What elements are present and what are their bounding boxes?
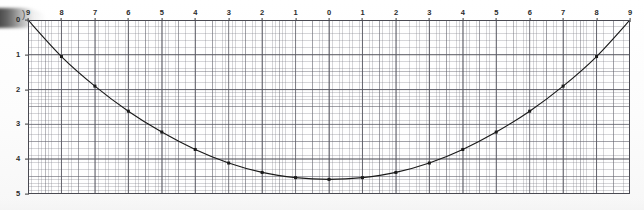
data-point-marker-1: [60, 55, 63, 58]
data-point-marker-10: [361, 176, 364, 179]
x-tick-label-2: 7: [93, 9, 97, 17]
data-point-marker-7: [261, 171, 264, 174]
x-tick-label-1: 8: [59, 9, 63, 17]
data-point-marker-15: [528, 110, 531, 113]
data-point-marker-2: [93, 85, 96, 88]
data-point-marker-16: [562, 85, 565, 88]
x-tick-label-10: 1: [360, 9, 364, 17]
y-tick-label-2: 2: [16, 86, 20, 94]
x-tick-label-18: 9: [628, 9, 632, 17]
graph-paper-page: ) 9876543210123456789 012345: [0, 0, 644, 210]
data-point-marker-17: [595, 55, 598, 58]
x-tick-label-8: 1: [294, 9, 298, 17]
x-tick-label-3: 6: [126, 9, 130, 17]
y-tick-label-5: 5: [16, 190, 20, 198]
data-point-marker-3: [127, 110, 130, 113]
x-tick-label-12: 3: [427, 9, 431, 17]
x-tick-label-7: 2: [260, 9, 264, 17]
y-tick-label-0: 0: [16, 16, 20, 24]
scan-paren-mark: ): [22, 10, 25, 20]
y-tick-label-1: 1: [16, 51, 20, 59]
data-point-marker-14: [495, 131, 498, 134]
x-tick-label-5: 4: [193, 9, 197, 17]
x-tick-label-15: 6: [528, 9, 532, 17]
x-tick-label-17: 8: [595, 9, 599, 17]
curve-overlay: [28, 20, 630, 194]
y-tick-label-3: 3: [16, 121, 20, 129]
data-point-marker-9: [328, 178, 331, 181]
data-point-marker-4: [160, 131, 163, 134]
bottom-edge-shadow: [0, 198, 644, 210]
data-point-marker-5: [194, 148, 197, 151]
data-point-marker-12: [428, 162, 431, 165]
data-point-marker-13: [461, 148, 464, 151]
y-tick-label-4: 4: [16, 155, 20, 163]
x-tick-label-9: 0: [327, 9, 331, 17]
major-gridlines: [28, 20, 630, 194]
data-point-marker-8: [294, 176, 297, 179]
data-point-marker-6: [227, 162, 230, 165]
x-tick-label-13: 4: [461, 9, 465, 17]
data-point-marker-11: [394, 171, 397, 174]
x-tick-label-16: 7: [561, 9, 565, 17]
x-tick-label-6: 3: [227, 9, 231, 17]
x-tick-label-11: 2: [394, 9, 398, 17]
x-tick-label-14: 5: [494, 9, 498, 17]
x-tick-label-0: 9: [26, 9, 30, 17]
plot-area: [28, 20, 630, 194]
x-tick-label-4: 5: [160, 9, 164, 17]
